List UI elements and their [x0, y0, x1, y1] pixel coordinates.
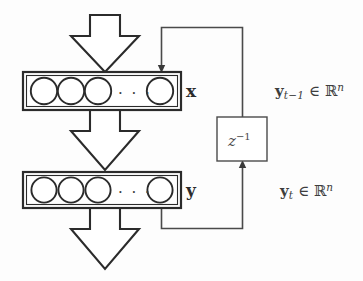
feedback-current-subscript: t — [289, 189, 293, 201]
feedback-prev-symbol: y — [275, 82, 284, 100]
input-arrow-icon — [71, 15, 139, 72]
output-layer-box — [23, 172, 181, 208]
block-arrow-group — [71, 15, 139, 269]
neuron — [31, 78, 57, 104]
feedback-prev-space: ℝ — [325, 82, 337, 100]
feedback-current-symbol: y — [280, 182, 289, 200]
feedback-current-label: yt ∈ ℝn — [280, 182, 333, 201]
input-layer-box — [23, 72, 181, 110]
diagram-vector-layer — [0, 0, 363, 281]
output-layer-ellipsis: · · · — [118, 185, 152, 200]
feedback-prev-relation: ∈ — [309, 82, 320, 100]
feedback-current-superscript: n — [326, 181, 333, 193]
feedback-current-relation: ∈ — [298, 182, 309, 200]
feedback-prev-subscript: t−1 — [284, 89, 304, 101]
neuron — [58, 177, 83, 202]
input-layer-ellipsis: · · · — [118, 86, 152, 101]
neuron — [31, 177, 56, 202]
neuron — [85, 177, 110, 202]
feedback-prev-superscript: n — [337, 81, 344, 93]
unit-delay-exponent: −1 — [236, 131, 251, 142]
unit-delay-base: z — [228, 132, 236, 150]
output-layer-label: y — [186, 182, 196, 199]
output-arrow-icon — [71, 208, 139, 269]
input-layer-label: x — [186, 83, 196, 100]
neuron — [85, 78, 111, 104]
middle-arrow-icon — [71, 110, 139, 170]
feedback-prev-label: yt−1 ∈ ℝn — [275, 82, 344, 101]
neuron — [58, 78, 84, 104]
feedback-current-space: ℝ — [314, 182, 326, 200]
unit-delay-label: z−1 — [228, 132, 251, 149]
diagram-canvas: · · · · · · x y z−1 yt−1 ∈ ℝn yt ∈ ℝn — [0, 0, 363, 281]
